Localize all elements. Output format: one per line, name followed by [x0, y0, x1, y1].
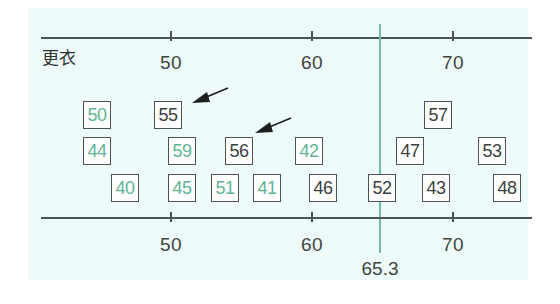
arrow-icon [255, 118, 291, 133]
arrow-icon [192, 88, 228, 103]
arrows-layer [0, 0, 560, 304]
